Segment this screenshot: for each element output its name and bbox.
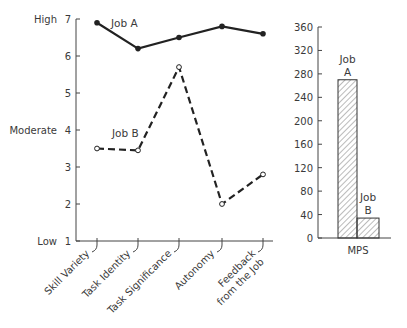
series-label-job-a: Job A (110, 17, 139, 29)
y-tick-label: 3 (65, 162, 71, 173)
mps-bar-chart: 04080120160200240280320360JobAJobBMPS (294, 22, 391, 256)
chart-canvas: 1234567HighModerateLowSkill VarietyTask … (0, 0, 407, 328)
bar-job-b (357, 218, 379, 238)
y-tick-label: 7 (65, 14, 71, 25)
data-point (220, 202, 225, 207)
y-tick-label: 6 (65, 51, 71, 62)
y-tick-label: 160 (294, 139, 313, 150)
x-category-label: Autonomy (172, 248, 216, 292)
job-characteristics-figure: 1234567HighModerateLowSkill VarietyTask … (0, 0, 407, 328)
y-level-label: Low (37, 236, 57, 247)
x-tick-leader (258, 245, 263, 252)
data-point (219, 24, 225, 30)
y-level-label: High (34, 14, 57, 25)
y-tick-label: 2 (65, 199, 71, 210)
y-tick-label: 40 (300, 210, 313, 221)
y-tick-label: 280 (294, 69, 313, 80)
bar-label-line: A (344, 66, 352, 78)
x-tick-leader (133, 245, 138, 252)
y-tick-label: 120 (294, 163, 313, 174)
x-tick-leader (174, 245, 179, 252)
y-tick-label: 200 (294, 116, 313, 127)
data-point (260, 31, 266, 37)
y-tick-label: 4 (65, 125, 71, 136)
y-tick-label: 80 (300, 186, 313, 197)
bar-label-line: B (364, 204, 371, 216)
bar-job-a (338, 80, 357, 238)
data-point (261, 172, 266, 177)
data-point (94, 20, 100, 26)
y-tick-label: 320 (294, 45, 313, 56)
x-tick-leader (217, 245, 222, 252)
data-point (176, 35, 182, 41)
series-label-job-b: Job B (111, 127, 139, 139)
x-axis-label: MPS (347, 245, 368, 256)
category-label-line: Autonomy (172, 248, 216, 292)
y-tick-label: 360 (294, 22, 313, 33)
job-profile-line-chart: 1234567HighModerateLowSkill VarietyTask … (9, 14, 273, 316)
y-tick-label: 1 (65, 236, 71, 247)
data-point (136, 148, 141, 153)
y-level-label: Moderate (9, 125, 57, 136)
y-tick-label: 0 (307, 233, 313, 244)
data-point (135, 46, 141, 52)
bar-label-line: Job (359, 191, 377, 203)
data-point (95, 146, 100, 151)
y-tick-label: 5 (65, 88, 71, 99)
x-tick-leader (92, 245, 97, 252)
y-tick-label: 240 (294, 92, 313, 103)
data-point (177, 65, 182, 70)
bar-label-line: Job (338, 53, 356, 65)
